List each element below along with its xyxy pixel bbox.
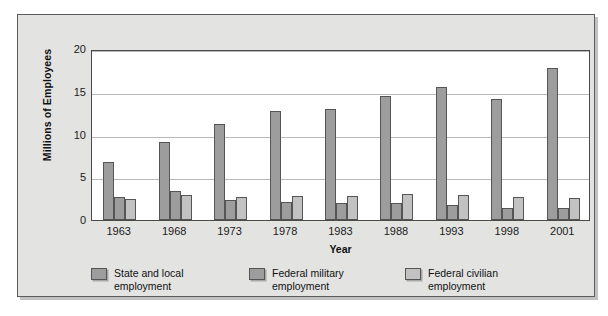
bar — [214, 124, 225, 220]
bar — [181, 195, 192, 220]
legend-item: State and local employment — [91, 267, 183, 292]
legend-item: Federal civilian employment — [405, 267, 498, 292]
bar — [114, 197, 125, 220]
x-axis-tick-label: 1988 — [366, 225, 426, 237]
chart-panel: Millions of Employees 05101520 196319681… — [17, 14, 595, 297]
x-axis-title: Year — [91, 243, 590, 255]
bar — [558, 208, 569, 220]
y-axis-tick-label: 15 — [64, 87, 86, 98]
legend-label: State and local employment — [114, 267, 183, 292]
bar — [236, 197, 247, 220]
bar — [391, 203, 402, 220]
gridline — [92, 137, 589, 138]
bar — [325, 109, 336, 220]
x-axis-tick-label: 1968 — [144, 225, 204, 237]
y-axis-title: Millions of Employees — [41, 35, 53, 175]
bar — [502, 208, 513, 220]
y-axis-tick-label: 0 — [64, 215, 86, 226]
chart-figure: Millions of Employees 05101520 196319681… — [0, 0, 608, 316]
x-axis-ticks: 196319681973197819831988199319982001 — [91, 225, 590, 243]
gridline — [92, 94, 589, 95]
x-axis-tick-label: 1973 — [200, 225, 260, 237]
bar — [292, 196, 303, 220]
bar — [513, 197, 524, 220]
bar — [125, 199, 136, 220]
bar — [436, 87, 447, 220]
x-axis-tick-label: 1963 — [89, 225, 149, 237]
y-axis-ticks: 05101520 — [60, 15, 86, 316]
bar — [281, 202, 292, 220]
chart-legend: State and local employmentFederal milita… — [91, 267, 551, 299]
bar — [225, 200, 236, 220]
bar — [347, 196, 358, 220]
bar — [402, 194, 413, 220]
legend-swatch-icon — [91, 268, 107, 280]
bar — [547, 68, 558, 220]
x-axis-tick-label: 2001 — [532, 225, 592, 237]
y-axis-tick-label: 10 — [64, 130, 86, 141]
legend-swatch-icon — [249, 268, 265, 280]
x-axis-tick-label: 1998 — [477, 225, 537, 237]
legend-label: Federal military employment — [272, 267, 344, 292]
y-axis-tick-label: 20 — [64, 44, 86, 55]
bar — [491, 99, 502, 220]
bar — [103, 162, 114, 220]
bar — [447, 205, 458, 220]
bar — [569, 198, 580, 220]
legend-swatch-icon — [405, 268, 421, 280]
bar — [336, 203, 347, 220]
bar — [170, 191, 181, 220]
bar — [270, 111, 281, 220]
x-axis-tick-label: 1993 — [421, 225, 481, 237]
bar — [159, 142, 170, 220]
x-axis-tick-label: 1978 — [255, 225, 315, 237]
x-axis-tick-label: 1983 — [311, 225, 371, 237]
bar — [380, 96, 391, 220]
plot-area — [91, 50, 590, 221]
legend-item: Federal military employment — [249, 267, 344, 292]
bar — [458, 195, 469, 220]
gridline — [92, 51, 589, 52]
y-axis-tick-label: 5 — [64, 172, 86, 183]
legend-label: Federal civilian employment — [428, 267, 498, 292]
